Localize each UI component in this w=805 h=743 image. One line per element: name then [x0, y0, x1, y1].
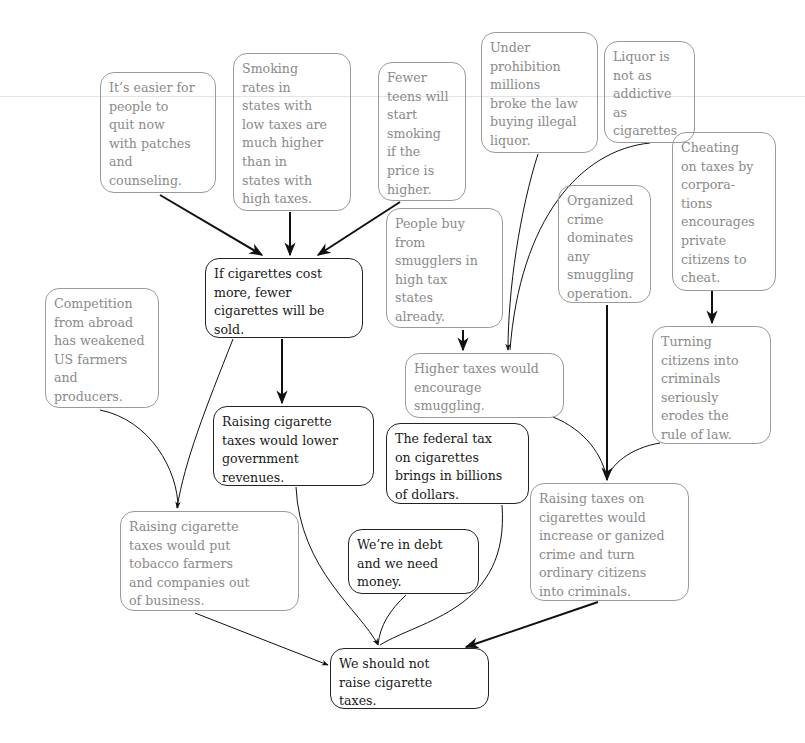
edge-d-to-k	[508, 154, 538, 350]
node-premise-liquor-addictive: Liquor is not as addictive as cigarettes	[604, 41, 695, 143]
node-conclusion: We should not raise cigarette taxes.	[330, 648, 489, 709]
edge-j-to-p	[100, 410, 178, 508]
edge-l-to-o	[607, 443, 660, 480]
node-premise-smoking-rates: Smoking rates in states with low taxes a…	[233, 53, 351, 211]
node-premise-competition-abroad: Competition from abroad has weakened US …	[45, 288, 159, 408]
node-premise-quit-easier: It’s easier for people to quit now with …	[100, 72, 216, 193]
edge-o-to-r	[466, 602, 598, 647]
node-claim-fewer-sold: If cigarettes cost more, fewer cigarette…	[205, 258, 363, 338]
edge-k-to-o	[553, 417, 607, 480]
node-premise-prohibition: Under prohibition millions broke the law…	[481, 32, 598, 153]
node-premise-organized-crime: Organized crime dominates any smuggling …	[558, 185, 651, 303]
node-premise-federal-tax: The federal tax on cigarettes brings in …	[386, 423, 529, 504]
edge-p-to-r	[195, 613, 328, 665]
node-premise-in-debt: We’re in debt and we need money.	[348, 529, 479, 594]
node-premise-smugglers: People buy from smugglers in high tax st…	[386, 208, 503, 328]
node-premise-corporate-cheating: Cheating on taxes by corpora- tions enco…	[672, 132, 776, 291]
edge-q-to-r	[378, 595, 406, 645]
node-premise-fewer-teens: Fewer teens will start smoking if the pr…	[378, 62, 466, 201]
node-claim-rule-of-law: Turning citizens into criminals seriousl…	[652, 326, 771, 444]
node-claim-smuggling: Higher taxes would encourage smuggling.	[405, 353, 564, 418]
node-claim-farmers-out-of-business: Raising cigarette taxes would put tobacc…	[120, 511, 299, 611]
node-claim-lower-revenues: Raising cigarette taxes would lower gove…	[213, 406, 374, 486]
node-claim-organized-crime-criminals: Raising taxes on cigarettes would increa…	[530, 483, 689, 601]
